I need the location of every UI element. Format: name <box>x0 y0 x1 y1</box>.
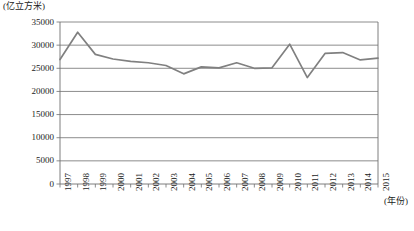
y-tick-label: 10000 <box>6 133 54 142</box>
y-tick-label: 0 <box>6 180 54 189</box>
x-tick-label: 2011 <box>311 173 320 191</box>
line-chart-svg <box>0 0 414 231</box>
x-tick-label: 2012 <box>329 173 338 191</box>
x-tick-label: 2004 <box>188 173 197 191</box>
chart-figure: (亿立方米) 050001000015000200002500030000350… <box>0 0 414 231</box>
x-tick-label: 2001 <box>135 173 144 191</box>
y-tick-label: 15000 <box>6 110 54 119</box>
x-tick-label: 2014 <box>364 173 373 191</box>
x-tick-label: 2013 <box>347 173 356 191</box>
x-tick-label: 2002 <box>152 173 161 191</box>
x-tick-label: 2008 <box>258 173 267 191</box>
x-tick-label: 1999 <box>99 173 108 191</box>
x-tick-label: 2009 <box>276 173 285 191</box>
y-tick-label: 25000 <box>6 64 54 73</box>
x-tick-label: 2007 <box>241 173 250 191</box>
x-tick-label: 2015 <box>382 173 391 191</box>
y-tick-label: 20000 <box>6 87 54 96</box>
plot-area: 0500010000150002000025000300003500019971… <box>0 0 414 231</box>
y-tick-label: 5000 <box>6 156 54 165</box>
x-tick-label: 2000 <box>117 173 126 191</box>
x-tick-label: 2010 <box>294 173 303 191</box>
x-tick-label: 2006 <box>223 173 232 191</box>
x-tick-label: 1998 <box>82 173 91 191</box>
figure-caption <box>0 222 414 231</box>
data-series-line <box>60 32 378 77</box>
x-tick-label: 2005 <box>205 173 214 191</box>
y-tick-label: 35000 <box>6 18 54 27</box>
x-tick-label: 1997 <box>64 173 73 191</box>
x-tick-label: 2003 <box>170 173 179 191</box>
y-tick-label: 30000 <box>6 41 54 50</box>
x-axis-title: (年份) <box>384 196 408 206</box>
